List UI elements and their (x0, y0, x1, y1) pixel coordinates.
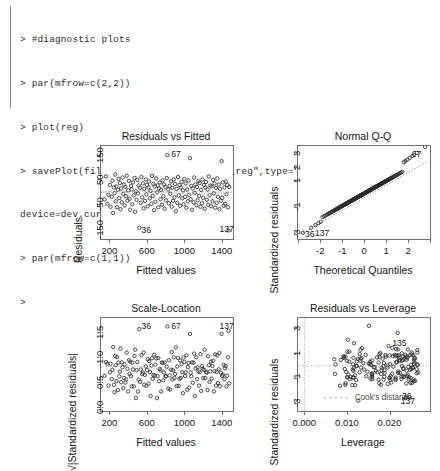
point-label-36: 36 (141, 321, 151, 331)
y-tick-label: 1 (291, 178, 302, 183)
x-tick-label: 0 (362, 245, 367, 256)
y-tick-label: 0.0 (94, 400, 105, 413)
x-tick-label: -2 (316, 245, 324, 256)
console-left-rule (10, 6, 11, 108)
point-label-67: 67 (171, 149, 181, 159)
x-tick-mark (109, 412, 110, 415)
plot-title: Residuals vs Leverage (273, 302, 440, 314)
x-tick-label: 200 (101, 245, 117, 256)
point-label-137: 137 (220, 224, 234, 234)
x-tick-label: 0.010 (335, 417, 359, 428)
y-tick-label: 150 (94, 147, 105, 163)
x-axis-label: Theoretical Quantiles (283, 264, 440, 276)
x-tick-label: -1 (338, 245, 346, 256)
x-tick-mark (347, 412, 348, 415)
x-tick-label: 0.000 (292, 417, 316, 428)
x-tick-mark (390, 412, 391, 415)
diagnostic-plot-grid: Residuals vs Fitted Residuals Fitted val… (0, 112, 440, 450)
x-tick-label: 600 (139, 245, 155, 256)
x-tick-mark (184, 240, 185, 243)
x-tick-label: 200 (101, 417, 117, 428)
point-label-135: 135 (392, 338, 406, 348)
y-tick-label: -1 (291, 374, 302, 382)
x-axis-label: Leverage (283, 436, 440, 448)
x-tick-label: 0.020 (378, 417, 402, 428)
console-line: > par(mfrow=c(2,2)) (20, 77, 329, 92)
x-tick-mark (147, 412, 148, 415)
y-tick-label: 1.0 (94, 350, 105, 363)
x-tick-mark (342, 240, 343, 243)
point-label-137: 137 (401, 396, 415, 406)
point-label-36: 36 (305, 229, 315, 239)
y-axis-label: Standardized residuals (268, 187, 280, 294)
point-label-137: 137 (220, 321, 234, 331)
y-axis-label: Standardized residuals (268, 359, 280, 466)
x-tick-mark (222, 412, 223, 415)
x-axis-label: Fitted values (86, 264, 246, 276)
point-label-137: 137 (315, 228, 329, 238)
x-tick-label: 1400 (211, 417, 232, 428)
plot-canvas (101, 318, 233, 411)
x-tick-mark (109, 240, 110, 243)
y-tick-label: 1.5 (94, 325, 105, 338)
x-tick-label: 1000 (174, 245, 195, 256)
console-line: > #diagnostic plots (20, 33, 329, 48)
x-tick-mark (386, 240, 387, 243)
x-tick-mark (364, 240, 365, 243)
plot-frame (100, 317, 234, 412)
plot-frame (297, 145, 431, 240)
y-axis-label: Residuals (72, 217, 84, 263)
y-tick-label: -1 (291, 203, 302, 211)
plot-canvas (298, 146, 430, 239)
x-tick-label: 1 (384, 245, 389, 256)
y-tick-label: -150 (94, 220, 105, 239)
x-tick-label: 1000 (174, 417, 195, 428)
x-tick-mark (304, 412, 305, 415)
point-label-67: 67 (171, 321, 181, 331)
x-tick-label: 2 (406, 245, 411, 256)
y-tick-label: -3 (291, 229, 302, 237)
x-tick-mark (430, 240, 431, 243)
x-tick-mark (298, 240, 299, 243)
y-tick-label: 3 (291, 325, 302, 330)
y-tick-label: -3 (291, 399, 302, 407)
point-label-36: 36 (141, 225, 151, 235)
plot-title: Normal Q-Q (273, 130, 440, 142)
point-label-67: 67 (412, 149, 422, 159)
plot-title: Scale-Location (76, 302, 256, 314)
x-tick-mark (408, 240, 409, 243)
x-axis-label: Fitted values (86, 436, 246, 448)
plot-canvas (101, 146, 233, 239)
r-console-output: > #diagnostic plots > par(mfrow=c(2,2)) … (0, 4, 440, 112)
y-tick-label: 3 (291, 151, 302, 156)
plot-title: Residuals vs Fitted (76, 130, 256, 142)
y-tick-label: 1 (291, 350, 302, 355)
x-tick-label: 1400 (211, 245, 232, 256)
y-axis-label: √|Standardized residuals| (66, 353, 78, 471)
y-tick-label: 0.5 (94, 375, 105, 388)
x-tick-label: 600 (139, 417, 155, 428)
x-tick-mark (184, 412, 185, 415)
x-tick-mark (147, 240, 148, 243)
y-tick-label: 50 (94, 174, 105, 185)
y-tick-label: 2 (291, 164, 302, 169)
x-tick-mark (320, 240, 321, 243)
plot-frame (100, 145, 234, 240)
y-tick-label: -50 (94, 198, 105, 212)
x-tick-mark (222, 240, 223, 243)
